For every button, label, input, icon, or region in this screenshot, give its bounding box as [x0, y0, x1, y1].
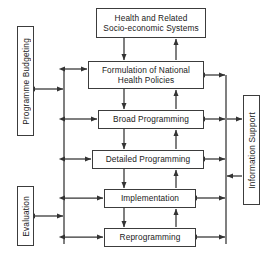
- node-formulation-label: Formulation of National Health Policies: [100, 65, 192, 86]
- node-implementation-label: Implementation: [119, 193, 181, 204]
- node-programme-budgeting[interactable]: Programme Budgeting: [17, 26, 34, 136]
- node-information-support-label: Information Support: [247, 112, 257, 189]
- node-health-systems[interactable]: Health and Related Socio-economic System…: [96, 8, 206, 38]
- node-reprogramming-label: Reprogramming: [118, 232, 183, 243]
- node-evaluation-label: Evaluation: [21, 196, 31, 237]
- node-broad-programming-label: Broad Programming: [111, 114, 191, 125]
- node-programme-budgeting-label: Programme Budgeting: [21, 38, 31, 125]
- node-detailed-programming[interactable]: Detailed Programming: [92, 150, 204, 169]
- node-health-systems-label: Health and Related Socio-economic System…: [101, 13, 200, 34]
- node-evaluation[interactable]: Evaluation: [17, 186, 34, 246]
- node-reprogramming[interactable]: Reprogramming: [104, 228, 196, 247]
- node-information-support[interactable]: Information Support: [243, 95, 260, 205]
- node-formulation[interactable]: Formulation of National Health Policies: [88, 61, 204, 89]
- diagram-canvas: Health and Related Socio-economic System…: [0, 0, 277, 267]
- diagram-connectors: [0, 0, 277, 267]
- node-detailed-programming-label: Detailed Programming: [104, 154, 193, 165]
- node-broad-programming[interactable]: Broad Programming: [98, 110, 204, 129]
- node-implementation[interactable]: Implementation: [104, 189, 196, 208]
